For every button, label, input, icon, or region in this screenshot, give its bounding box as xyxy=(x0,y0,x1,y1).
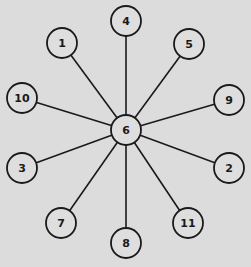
node-label: 9 xyxy=(225,94,233,107)
node-label: 6 xyxy=(122,124,130,137)
node-label: 4 xyxy=(122,15,130,28)
node-2: 2 xyxy=(214,153,244,183)
node-11: 11 xyxy=(173,208,203,238)
edge-6-10 xyxy=(22,98,126,130)
node-8: 8 xyxy=(111,228,141,258)
node-4: 4 xyxy=(111,6,141,36)
edge-6-1 xyxy=(62,43,126,130)
center-node-6: 6 xyxy=(111,115,141,145)
node-label: 1 xyxy=(58,37,66,50)
node-label: 10 xyxy=(14,92,30,105)
node-label: 3 xyxy=(18,162,26,175)
node-label: 7 xyxy=(57,217,65,230)
edge-6-7 xyxy=(61,130,126,223)
node-9: 9 xyxy=(214,85,244,115)
node-10: 10 xyxy=(7,83,37,113)
edge-6-5 xyxy=(126,44,189,130)
node-label: 8 xyxy=(122,237,130,250)
node-1: 1 xyxy=(47,28,77,58)
node-7: 7 xyxy=(46,208,76,238)
node-5: 5 xyxy=(174,29,204,59)
node-label: 11 xyxy=(180,217,195,230)
edge-6-3 xyxy=(22,130,126,168)
edge-6-11 xyxy=(126,130,188,223)
edge-6-2 xyxy=(126,130,229,168)
star-graph-diagram: 6415109327118 xyxy=(0,0,251,267)
node-label: 2 xyxy=(225,162,233,175)
node-3: 3 xyxy=(7,153,37,183)
node-label: 5 xyxy=(185,38,193,51)
edge-6-9 xyxy=(126,100,229,130)
